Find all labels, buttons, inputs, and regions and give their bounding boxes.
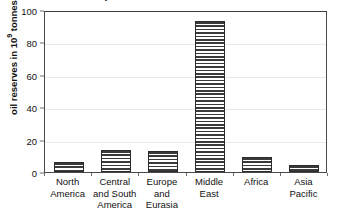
- y-tick-label: 60: [26, 70, 37, 81]
- bar-slot: [234, 12, 281, 172]
- bar-slot: [187, 12, 234, 172]
- x-tick-label-line: North: [44, 176, 91, 188]
- bars-layer: [45, 12, 326, 172]
- bar[interactable]: [101, 150, 131, 172]
- bar[interactable]: [195, 21, 225, 172]
- x-axis-labels: NorthAmericaCentraland SouthAmericaEurop…: [44, 176, 327, 216]
- x-tick-label-line: East: [186, 188, 233, 200]
- bar-slot: [281, 12, 328, 172]
- x-tick-label-line: Eurasia: [138, 199, 185, 211]
- x-tick-label: MiddleEast: [186, 176, 233, 199]
- x-tick-label-line: and: [138, 188, 185, 200]
- x-tick-label: Centraland SouthAmerica: [91, 176, 138, 211]
- y-tick-label: 40: [26, 103, 37, 114]
- bar-slot: [45, 12, 92, 172]
- x-tick-label: EuropeandEurasia: [138, 176, 185, 211]
- x-tick-label-line: Asia: [280, 176, 327, 188]
- y-tick-label: 0: [32, 168, 37, 179]
- bar[interactable]: [54, 162, 84, 172]
- x-tick-mark: [327, 173, 328, 176]
- bar-chart: proven oil reserves 2012 oil reserves in…: [0, 0, 340, 216]
- x-tick-label: NorthAmerica: [44, 176, 91, 199]
- x-tick-label-line: Pacific: [280, 188, 327, 200]
- x-tick-label-line: Central: [91, 176, 138, 188]
- plot-area: [44, 11, 327, 173]
- x-tick-label-line: Europe: [138, 176, 185, 188]
- x-tick-label-line: Africa: [233, 176, 280, 188]
- x-tick-label-line: America: [91, 199, 138, 211]
- bar-slot: [139, 12, 186, 172]
- y-tick-label: 100: [21, 6, 37, 17]
- bar-slot: [92, 12, 139, 172]
- x-tick-label-line: America: [44, 188, 91, 200]
- x-tick-label: AsiaPacific: [280, 176, 327, 199]
- x-tick-label: Africa: [233, 176, 280, 188]
- x-tick-label-line: and South: [91, 188, 138, 200]
- bar[interactable]: [289, 165, 319, 172]
- y-tick-label: 20: [26, 135, 37, 146]
- x-tick-label-line: Middle: [186, 176, 233, 188]
- bar[interactable]: [148, 151, 178, 172]
- bar[interactable]: [242, 157, 272, 172]
- y-tick-label: 80: [26, 38, 37, 49]
- y-axis-ticks: 020406080100: [0, 0, 44, 216]
- chart-title: proven oil reserves 2012: [0, 0, 340, 1]
